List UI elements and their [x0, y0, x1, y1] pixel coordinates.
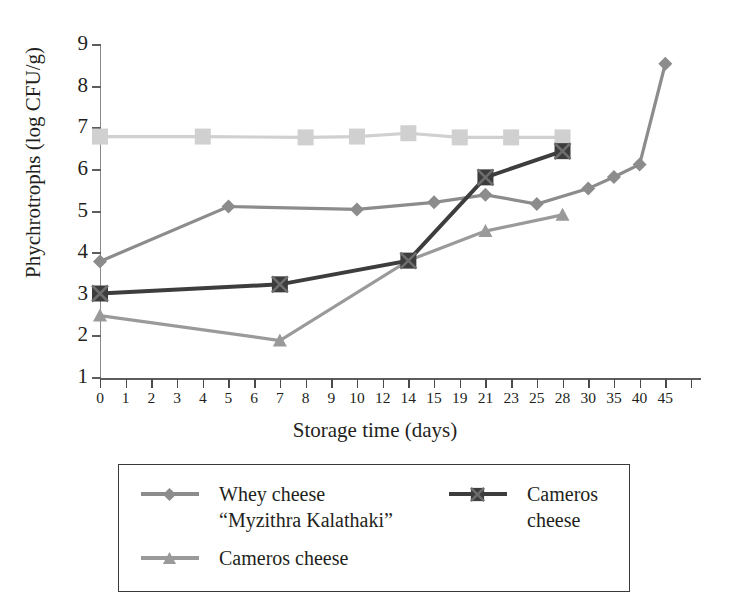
x-tick-label: 0 — [96, 390, 104, 406]
data-point-cross-square — [555, 143, 571, 159]
x-tick-label: 5 — [225, 390, 233, 406]
y-tick-label: 7 — [58, 116, 88, 137]
series-cameros-cheese-cross — [92, 143, 571, 301]
y-tick — [92, 169, 101, 171]
data-point-diamond — [221, 200, 235, 214]
y-axis-title: Phychrotrophs (log CFU/g) — [21, 0, 46, 358]
data-point-square — [349, 129, 365, 145]
y-tick — [92, 86, 101, 88]
legend-entry[interactable]: Cameros cheese — [449, 481, 629, 533]
data-point-diamond — [478, 188, 492, 202]
data-point-diamond — [581, 182, 595, 196]
y-tick — [92, 127, 101, 129]
y-tick-label: 2 — [58, 324, 88, 345]
x-tick — [614, 379, 615, 388]
data-point-diamond — [350, 202, 364, 216]
x-axis-title: Storage time (days) — [0, 418, 750, 443]
data-point-triangle — [273, 334, 287, 347]
y-tick-label: 8 — [58, 75, 88, 96]
data-point-square — [503, 129, 519, 145]
x-tick-label: 12 — [375, 390, 391, 406]
x-tick-label: 40 — [632, 390, 648, 406]
x-tick — [306, 379, 307, 388]
data-point-diamond — [607, 170, 621, 184]
x-tick — [177, 379, 178, 388]
data-point-diamond — [658, 57, 672, 71]
x-tick-label: 19 — [452, 390, 468, 406]
x-tick — [357, 379, 358, 388]
x-tick — [537, 379, 538, 388]
x-tick-label: 1 — [122, 390, 130, 406]
x-tick — [563, 379, 564, 388]
series-cameros-cheese-triangle — [93, 208, 570, 347]
x-tick-label: 4 — [199, 390, 207, 406]
x-tick — [511, 379, 512, 388]
x-axis-line — [100, 378, 701, 380]
data-point-diamond — [163, 488, 176, 501]
data-point-square — [555, 129, 571, 145]
data-point-triangle — [556, 208, 570, 221]
legend-marker-cross-square-icon — [449, 483, 507, 505]
y-tick-label: 4 — [58, 241, 88, 262]
x-tick — [228, 379, 229, 388]
legend-marker-triangle-icon — [141, 547, 199, 569]
series-whey-cheese-myzithra-kalathaki — [93, 57, 672, 269]
legend-entry[interactable]: Cameros cheese — [141, 545, 348, 571]
y-tick — [92, 211, 101, 213]
y-tick — [92, 335, 101, 337]
legend-entry[interactable]: Whey cheese “Myzithra Kalathaki” — [141, 481, 393, 533]
x-tick — [485, 379, 486, 388]
y-tick-label: 5 — [58, 200, 88, 221]
x-tick — [640, 379, 641, 388]
x-tick-label: 10 — [349, 390, 365, 406]
x-tick — [665, 379, 666, 388]
legend-label: Whey cheese “Myzithra Kalathaki” — [219, 481, 393, 533]
data-point-triangle — [163, 552, 176, 564]
data-point-cross-square — [471, 488, 484, 501]
data-point-square — [298, 129, 314, 145]
y-tick-label: 6 — [58, 158, 88, 179]
x-tick — [383, 379, 384, 388]
x-tick-label: 23 — [503, 390, 519, 406]
data-point-square — [195, 129, 211, 145]
x-tick — [254, 379, 255, 388]
y-tick-label: 3 — [58, 283, 88, 304]
x-tick — [203, 379, 204, 388]
x-tick-label: 14 — [401, 390, 417, 406]
x-tick — [280, 379, 281, 388]
x-tick-label: 2 — [148, 390, 156, 406]
x-tick-label: 45 — [658, 390, 674, 406]
x-tick — [691, 379, 692, 388]
data-point-diamond — [427, 195, 441, 209]
x-tick-label: 7 — [276, 390, 284, 406]
y-tick — [92, 294, 101, 296]
x-tick — [460, 379, 461, 388]
y-tick — [92, 44, 101, 46]
chart-figure: 987654321 012345678910121415192123252830… — [0, 0, 750, 607]
legend-label: Cameros cheese — [527, 481, 629, 533]
x-tick — [100, 379, 101, 388]
x-tick-label: 6 — [250, 390, 258, 406]
x-tick — [331, 379, 332, 388]
y-tick — [92, 252, 101, 254]
chart-legend: Whey cheese “Myzithra Kalathaki”Cameros … — [118, 464, 630, 592]
x-tick — [151, 379, 152, 388]
data-point-triangle — [478, 224, 492, 237]
data-point-cross-square — [400, 253, 416, 269]
x-tick — [434, 379, 435, 388]
data-point-diamond — [530, 197, 544, 211]
data-point-diamond — [633, 157, 647, 171]
x-tick-label: 9 — [327, 390, 335, 406]
x-tick — [588, 379, 589, 388]
legend-label: Cameros cheese — [219, 545, 348, 571]
data-point-square — [400, 125, 416, 141]
data-point-square — [452, 129, 468, 145]
data-point-cross-square — [272, 276, 288, 292]
x-tick-label: 8 — [302, 390, 310, 406]
legend-marker-diamond-icon — [141, 483, 199, 505]
data-point-cross-square — [477, 169, 493, 185]
series-light-gray-squares — [92, 125, 571, 145]
x-tick-label: 15 — [426, 390, 442, 406]
x-tick-label: 35 — [606, 390, 622, 406]
data-point-triangle — [401, 254, 415, 267]
